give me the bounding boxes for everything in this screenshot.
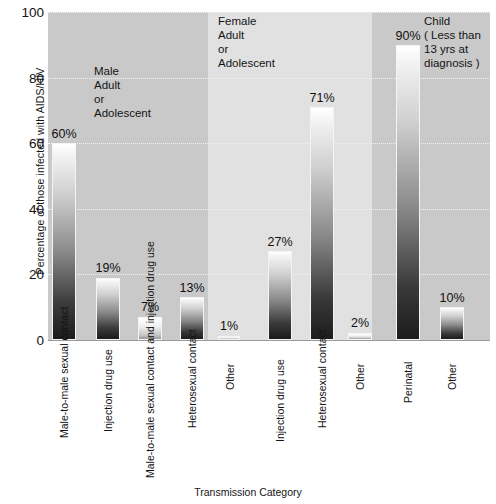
category-label-4: Other xyxy=(224,364,237,390)
category-label-3: Heterosexual contact xyxy=(186,329,199,428)
plot-area: Male Adult or Adolescent Female Adult or… xyxy=(48,12,490,340)
category-label-2: Male-to-male sexual contact and injectio… xyxy=(144,241,157,478)
bar-1[interactable] xyxy=(96,278,120,340)
bar-value-0: 60% xyxy=(51,127,76,141)
y-tick-60: 60 xyxy=(4,136,44,151)
bar-value-4: 1% xyxy=(220,319,238,333)
bar-value-9: 10% xyxy=(439,291,464,305)
gridline-60 xyxy=(48,143,490,144)
bar-8[interactable] xyxy=(396,45,420,340)
gridline-100 xyxy=(48,12,490,13)
category-label-9: Other xyxy=(446,364,459,390)
category-label-7: Other xyxy=(354,364,367,390)
gridline-40 xyxy=(48,209,490,210)
bar-value-5: 27% xyxy=(267,235,292,249)
group-label-female: Female Adult or Adolescent xyxy=(218,14,275,70)
bar-value-3: 13% xyxy=(179,281,204,295)
bar-value-7: 2% xyxy=(351,316,369,330)
y-tick-100: 100 xyxy=(4,5,44,20)
category-label-6: Heterosexual contact xyxy=(316,329,329,428)
bar-4[interactable] xyxy=(218,336,240,340)
group-label-male: Male Adult or Adolescent xyxy=(94,64,151,120)
y-tick-80: 80 xyxy=(4,70,44,85)
category-label-1: Injection drug use xyxy=(102,349,115,432)
y-tick-20: 20 xyxy=(4,267,44,282)
bar-5[interactable] xyxy=(268,251,292,340)
bar-value-1: 19% xyxy=(95,261,120,275)
y-tick-40: 40 xyxy=(4,201,44,216)
category-label-8: Perinatal xyxy=(402,362,415,403)
group-label-child: Child ( Less than 13 yrs at diagnosis ) xyxy=(424,14,481,70)
y-axis-tick-labels: 100 80 60 40 20 0 xyxy=(0,0,44,504)
bar-7[interactable] xyxy=(348,333,372,340)
bar-chart-figure: Percentage of those infected with AIDS/H… xyxy=(0,0,496,504)
bar-9[interactable] xyxy=(440,307,464,340)
x-axis-title: Transmission Category xyxy=(0,486,496,498)
axis-baseline xyxy=(48,340,490,341)
bar-value-8: 90% xyxy=(395,29,420,43)
category-label-0: Male-to-male sexual contact xyxy=(58,307,71,438)
bar-value-6: 71% xyxy=(309,91,334,105)
y-tick-0: 0 xyxy=(4,333,44,348)
bar-6[interactable] xyxy=(310,107,334,340)
category-label-5: Injection drug use xyxy=(274,359,287,442)
